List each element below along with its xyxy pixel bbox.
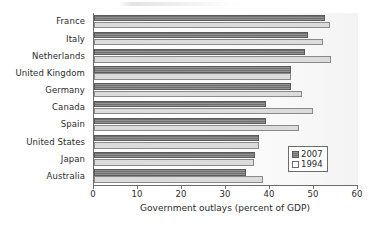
bar-netherlands-1994	[94, 56, 331, 62]
x-tick-label-60: 60	[352, 190, 363, 199]
legend-label-2007: 2007	[301, 150, 323, 159]
y-axis-label-spain: Spain	[0, 116, 89, 133]
y-axis-label-united-states: United States	[0, 133, 89, 150]
bar-group-spain	[94, 116, 358, 133]
bar-group-italy	[94, 30, 358, 47]
legend-item-2007: 2007	[292, 149, 323, 159]
bar-france-1994	[94, 22, 330, 28]
x-tick-label-10: 10	[132, 190, 143, 199]
bar-germany-2007	[94, 83, 291, 89]
bar-group-france	[94, 13, 358, 30]
bar-united-states-1994	[94, 142, 259, 148]
x-tick-label-40: 40	[264, 190, 275, 199]
bar-canada-2007	[94, 101, 266, 107]
bar-group-germany	[94, 82, 358, 99]
bar-group-netherlands	[94, 47, 358, 64]
bar-japan-1994	[94, 159, 254, 165]
y-axis-category-labels: France Italy Netherlands United Kingdom …	[0, 13, 89, 185]
legend-swatch-2007-icon	[292, 151, 299, 158]
y-axis-label-japan: Japan	[0, 151, 89, 168]
legend-swatch-1994-icon	[292, 161, 299, 168]
bar-australia-2007	[94, 169, 246, 175]
bar-netherlands-2007	[94, 49, 305, 55]
x-axis-ticks: 0102030405060	[93, 185, 357, 201]
bar-france-2007	[94, 15, 325, 21]
x-tick-label-50: 50	[308, 190, 319, 199]
y-axis-label-netherlands: Netherlands	[0, 47, 89, 64]
legend-item-1994: 1994	[292, 159, 323, 169]
x-axis-title: Government outlays (percent of GDP)	[93, 204, 357, 213]
y-axis-label-france: France	[0, 13, 89, 30]
bar-group-canada	[94, 99, 358, 116]
bar-spain-2007	[94, 118, 266, 124]
bar-united-kingdom-1994	[94, 73, 291, 79]
bar-chart-figure: France Italy Netherlands United Kingdom …	[0, 0, 376, 230]
bar-united-kingdom-2007	[94, 66, 291, 72]
x-tick-label-20: 20	[176, 190, 187, 199]
bar-japan-2007	[94, 152, 255, 158]
y-axis-label-australia: Australia	[0, 168, 89, 185]
chart-legend: 2007 1994	[288, 146, 328, 172]
bar-group-united-kingdom	[94, 65, 358, 82]
bar-australia-1994	[94, 176, 263, 182]
bar-united-states-2007	[94, 135, 259, 141]
bar-italy-2007	[94, 32, 308, 38]
bar-spain-1994	[94, 125, 299, 131]
y-axis-label-italy: Italy	[0, 30, 89, 47]
scan-artifact	[118, 2, 238, 6]
y-axis-label-canada: Canada	[0, 99, 89, 116]
bar-italy-1994	[94, 39, 323, 45]
x-tick-label-30: 30	[220, 190, 231, 199]
y-axis-label-germany: Germany	[0, 82, 89, 99]
legend-label-1994: 1994	[301, 160, 323, 169]
bar-germany-1994	[94, 91, 302, 97]
x-tick-label-0: 0	[90, 190, 95, 199]
bar-canada-1994	[94, 108, 313, 114]
y-axis-label-united-kingdom: United Kingdom	[0, 65, 89, 82]
